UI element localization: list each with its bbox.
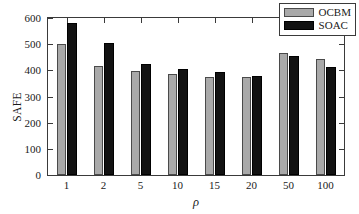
y-tick-mark — [48, 44, 53, 45]
legend-swatch-soac — [284, 21, 314, 30]
legend-item-ocbm: OCBM — [284, 6, 351, 19]
y-tick-label: 100 — [25, 143, 42, 154]
legend-swatch-ocbm — [284, 8, 314, 17]
x-tick-mark-top — [252, 18, 253, 23]
y-tick-mark-right — [339, 149, 344, 150]
bar-soac-50 — [289, 56, 299, 175]
bar-ocbm-10 — [168, 74, 178, 175]
bar-ocbm-100 — [316, 59, 326, 175]
y-tick-label: 500 — [25, 39, 42, 50]
x-tick-label: 10 — [172, 180, 183, 191]
y-tick-mark — [48, 97, 53, 98]
x-tick-mark-top — [178, 18, 179, 23]
bar-soac-20 — [252, 76, 262, 175]
bar-soac-15 — [215, 72, 225, 175]
bar-soac-5 — [141, 64, 151, 175]
x-tick-mark-top — [141, 18, 142, 23]
y-tick-mark — [48, 149, 53, 150]
x-axis-title: ρ — [47, 196, 345, 209]
plot-area: 0100200300400500600 12510152050100 — [47, 17, 345, 176]
bar-soac-100 — [326, 67, 336, 175]
bar-ocbm-15 — [205, 77, 215, 175]
bar-ocbm-2 — [94, 66, 104, 175]
legend-label-ocbm: OCBM — [319, 7, 351, 18]
x-tick-label: 1 — [64, 180, 70, 191]
legend-item-soac: SOAC — [284, 19, 351, 32]
y-tick-label: 200 — [25, 117, 42, 128]
y-tick-mark — [48, 123, 53, 124]
y-tick-label: 600 — [25, 13, 42, 24]
bar-ocbm-50 — [279, 53, 289, 175]
y-tick-mark-right — [339, 44, 344, 45]
bar-soac-2 — [104, 43, 114, 175]
x-tick-label: 2 — [101, 180, 107, 191]
y-axis-title: SAFE — [11, 92, 23, 122]
y-tick-mark-right — [339, 70, 344, 71]
bar-ocbm-5 — [131, 71, 141, 175]
x-tick-mark-top — [104, 18, 105, 23]
y-tick-label: 0 — [36, 170, 42, 181]
y-tick-mark-right — [339, 97, 344, 98]
x-tick-label: 15 — [209, 180, 220, 191]
y-tick-mark — [48, 175, 53, 176]
x-tick-label: 5 — [138, 180, 144, 191]
bar-soac-10 — [178, 69, 188, 175]
bar-soac-1 — [67, 23, 77, 175]
bar-ocbm-20 — [242, 77, 252, 175]
chart-figure: SAFE ρ 0100200300400500600 1251015205010… — [0, 0, 359, 214]
y-tick-mark — [48, 18, 53, 19]
y-tick-label: 400 — [25, 65, 42, 76]
x-tick-mark-top — [215, 18, 216, 23]
legend-label-soac: SOAC — [319, 20, 348, 31]
y-tick-label: 300 — [25, 91, 42, 102]
x-tick-label: 50 — [283, 180, 294, 191]
x-tick-label: 100 — [317, 180, 334, 191]
chart-legend: OCBM SOAC — [279, 3, 356, 36]
bar-ocbm-1 — [57, 44, 67, 175]
y-tick-mark-right — [339, 175, 344, 176]
x-tick-label: 20 — [246, 180, 257, 191]
y-tick-mark — [48, 70, 53, 71]
y-tick-mark-right — [339, 123, 344, 124]
